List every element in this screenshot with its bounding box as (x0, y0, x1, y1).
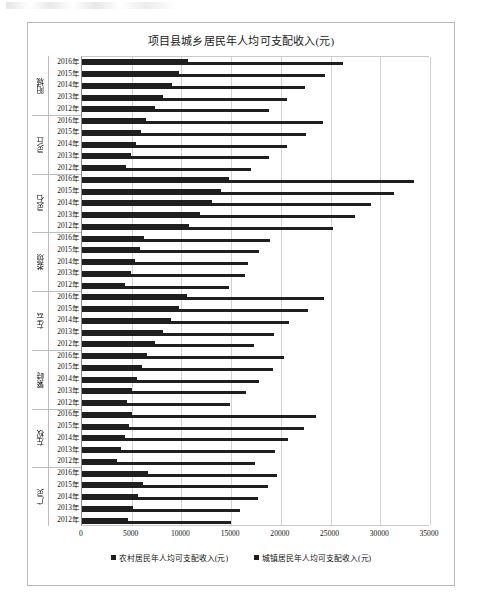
x-tick-label: 5000 (123, 529, 138, 538)
year-label: 2013年 (57, 93, 79, 100)
x-tick-label: 30000 (370, 529, 389, 538)
bar-rural (82, 306, 179, 312)
bar-rural (82, 424, 129, 430)
x-axis: 05000100001500020000250003000035000 (81, 529, 429, 543)
group-label-text: 灵石 (35, 194, 46, 211)
group-label-text: 繁峙 (35, 371, 46, 388)
bar-rural (82, 271, 131, 277)
year-label: 2015年 (57, 187, 79, 194)
group-label-左权: 左权 (32, 409, 48, 468)
bar-rural (82, 459, 117, 465)
bar-rural (82, 177, 229, 183)
group-label-text: 左权 (35, 429, 46, 446)
gridline (281, 57, 282, 525)
bar-rural (82, 212, 200, 218)
bar-rural (82, 153, 131, 159)
year-label: 2012年 (57, 281, 79, 288)
bar-rural (82, 59, 188, 65)
year-label: 2016年 (57, 293, 79, 300)
bar-rural (82, 318, 171, 324)
gridline (132, 57, 133, 525)
year-label: 2012年 (57, 222, 79, 229)
legend-item: 农村居民年人均可支配收入(元) (111, 552, 228, 563)
bar-rural (82, 435, 125, 441)
year-label: 2014年 (57, 258, 79, 265)
x-tick-label: 15000 (221, 529, 240, 538)
bar-rural (82, 236, 144, 242)
year-label: 2012年 (57, 399, 79, 406)
year-label: 2014年 (57, 375, 79, 382)
year-label: 2014年 (57, 493, 79, 500)
year-label: 2015年 (57, 363, 79, 370)
legend-label: 农村居民年人均可支配收入(元) (119, 552, 228, 563)
year-label: 2015年 (57, 305, 79, 312)
year-label: 2015年 (57, 70, 79, 77)
group-label-text: 广灵 (35, 488, 46, 505)
gridline (331, 57, 332, 525)
year-label: 2015年 (57, 481, 79, 488)
chart-container: 项目县城乡居民年人均可支配收入(元) 阳城灵丘灵石娄烦左云繁峙左权广灵 2016… (27, 22, 455, 586)
year-label: 2016年 (57, 410, 79, 417)
legend-swatch (111, 555, 116, 560)
year-label: 2014年 (57, 140, 79, 147)
bar-rural (82, 482, 143, 488)
year-label: 2013年 (57, 328, 79, 335)
gridline (181, 57, 182, 525)
bar-rural (82, 330, 163, 336)
bar-rural (82, 130, 141, 136)
year-label: 2016年 (57, 469, 79, 476)
legend-item: 城镇居民年人均可支配收入(元) (254, 552, 371, 563)
chart-title: 项目县城乡居民年人均可支配收入(元) (28, 32, 454, 48)
bar-rural (82, 83, 172, 89)
year-label: 2016年 (57, 117, 79, 124)
group-label-娄烦: 娄烦 (32, 232, 48, 291)
year-label: 2015年 (57, 422, 79, 429)
year-label: 2014年 (57, 434, 79, 441)
gridline (231, 57, 232, 525)
x-tick-label: 35000 (420, 529, 439, 538)
year-label: 2012年 (57, 457, 79, 464)
year-label: 2012年 (57, 516, 79, 523)
year-label: 2013年 (57, 504, 79, 511)
x-tick-label: 20000 (270, 529, 289, 538)
bar-rural (82, 377, 137, 383)
group-label-灵丘: 灵丘 (32, 115, 48, 174)
x-tick-label: 10000 (171, 529, 190, 538)
bar-rural (82, 341, 155, 347)
bar-rural (82, 142, 136, 148)
bar-rural (82, 247, 140, 253)
bar-rural (82, 400, 127, 406)
year-label: 2016年 (57, 175, 79, 182)
chart-legend: 农村居民年人均可支配收入(元)城镇居民年人均可支配收入(元) (28, 552, 454, 563)
gridline (380, 57, 381, 525)
group-label-灵石: 灵石 (32, 174, 48, 233)
group-label-广灵: 广灵 (32, 467, 48, 526)
year-label: 2012年 (57, 164, 79, 171)
bar-rural (82, 71, 179, 77)
group-label-阳城: 阳城 (32, 56, 48, 115)
bar-rural (82, 365, 142, 371)
group-label-text: 灵丘 (35, 136, 46, 153)
year-label: 2016年 (57, 58, 79, 65)
bar-rural (82, 506, 133, 512)
year-label: 2016年 (57, 352, 79, 359)
group-label-繁峙: 繁峙 (32, 350, 48, 409)
plot-area (81, 56, 429, 526)
bar-rural (82, 106, 155, 112)
year-label: 2013年 (57, 446, 79, 453)
year-label: 2013年 (57, 152, 79, 159)
category-axis: 2016年2015年2014年2013年2012年2016年2015年2014年… (48, 56, 81, 526)
bar-rural (82, 224, 189, 230)
bar-rural (82, 200, 212, 206)
year-label: 2012年 (57, 340, 79, 347)
year-label: 2015年 (57, 128, 79, 135)
legend-label: 城镇居民年人均可支配收入(元) (262, 552, 371, 563)
group-label-text: 左云 (35, 312, 46, 329)
bar-rural (82, 95, 163, 101)
bar-rural (82, 518, 128, 524)
bar-rural (82, 494, 138, 500)
year-label: 2013年 (57, 211, 79, 218)
year-label: 2012年 (57, 105, 79, 112)
year-label: 2014年 (57, 81, 79, 88)
bar-rural (82, 283, 125, 289)
